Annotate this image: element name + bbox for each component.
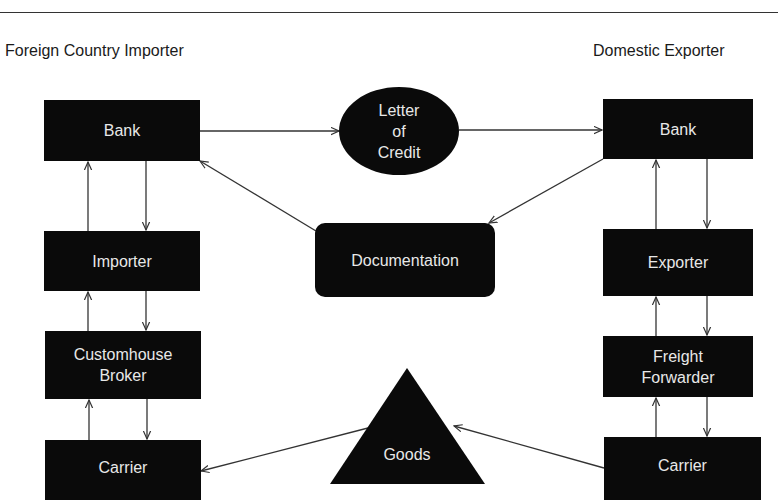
goods-triangle xyxy=(330,368,485,484)
node-label: Documentation xyxy=(351,250,459,271)
arrow-documentation-to-bank xyxy=(200,161,316,231)
node-label-line-1: Customhouse xyxy=(74,344,173,365)
node-goods-label: Goods xyxy=(367,446,447,464)
node-label-line-2: of xyxy=(392,121,405,142)
node-letter-of-credit: Letter of Credit xyxy=(339,87,459,175)
node-label-line-1: Freight xyxy=(653,346,703,367)
node-domestic-bank: Bank xyxy=(603,99,753,159)
node-exporter: Exporter xyxy=(603,229,753,296)
node-freight-forwarder: Freight Forwarder xyxy=(603,336,753,397)
node-label: Bank xyxy=(660,119,696,140)
node-label-line-2: Broker xyxy=(99,365,146,386)
node-label-line-3: Credit xyxy=(378,142,421,163)
node-foreign-carrier: Carrier xyxy=(45,440,201,500)
node-customhouse-broker: Customhouse Broker xyxy=(45,331,201,399)
node-importer: Importer xyxy=(44,231,200,291)
node-label: Importer xyxy=(92,251,152,272)
node-label: Exporter xyxy=(648,252,708,273)
node-label-line-1: Letter xyxy=(379,100,420,121)
node-label-line-2: Forwarder xyxy=(642,367,715,388)
node-documentation: Documentation xyxy=(315,223,495,297)
node-label: Carrier xyxy=(658,455,707,476)
node-label: Bank xyxy=(104,120,140,141)
arrow-bank-to-documentation xyxy=(489,159,603,223)
node-label: Carrier xyxy=(99,457,148,478)
node-foreign-bank: Bank xyxy=(44,100,200,161)
node-domestic-carrier: Carrier xyxy=(604,437,761,500)
arrow-carrier-to-goods xyxy=(454,426,604,468)
